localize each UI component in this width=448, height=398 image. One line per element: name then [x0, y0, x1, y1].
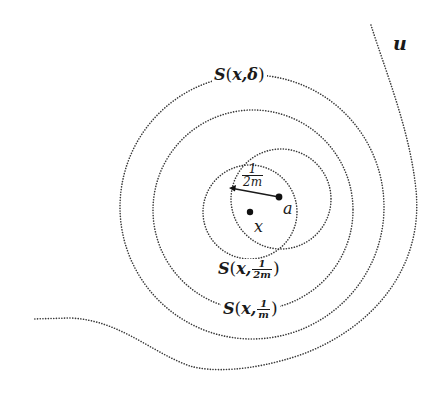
label-close-paren: ) — [273, 258, 280, 278]
label-sep: , — [246, 259, 252, 278]
label-var: x — [232, 65, 242, 84]
label-fraction: 12m — [252, 259, 272, 280]
label-s-one-over-m: S(x,1m) — [221, 299, 280, 320]
label-radius: 1 2m — [241, 163, 264, 188]
label-sep: , — [251, 299, 257, 318]
fraction-denominator: m — [257, 309, 270, 320]
label-close-paren: ) — [271, 298, 278, 318]
diagram-svg — [0, 0, 448, 398]
circle-s-one-over-m — [153, 110, 353, 310]
fraction-denominator: 2m — [252, 269, 272, 280]
label-fraction: 1m — [257, 299, 270, 320]
point-a — [276, 194, 283, 201]
label-close-paren: ) — [258, 64, 265, 84]
label-s-one-over-2m: S(x,12m) — [216, 259, 282, 280]
label-var: x — [241, 299, 251, 318]
radius-fraction: 1 2m — [242, 163, 263, 188]
fraction-numerator: 1 — [258, 259, 267, 269]
fraction-numerator: 1 — [259, 299, 268, 309]
diagram-canvas: S(x,δ) 1 2m a x S(x,12m) S(x,1m) u — [0, 0, 448, 398]
label-curve-u: u — [393, 34, 407, 53]
radius-numerator: 1 — [248, 163, 258, 175]
label-var: x — [236, 259, 246, 278]
label-s-delta: S(x,δ) — [212, 66, 267, 83]
label-s-prefix: S — [214, 65, 226, 84]
radius-line — [233, 189, 279, 198]
radius-denominator: 2m — [242, 175, 263, 188]
label-s-prefix: S — [223, 299, 235, 318]
label-s-prefix: S — [218, 259, 230, 278]
label-point-a: a — [283, 201, 293, 217]
label-point-x: x — [254, 219, 263, 235]
point-x — [247, 209, 253, 215]
label-arg-delta: δ — [247, 65, 258, 84]
